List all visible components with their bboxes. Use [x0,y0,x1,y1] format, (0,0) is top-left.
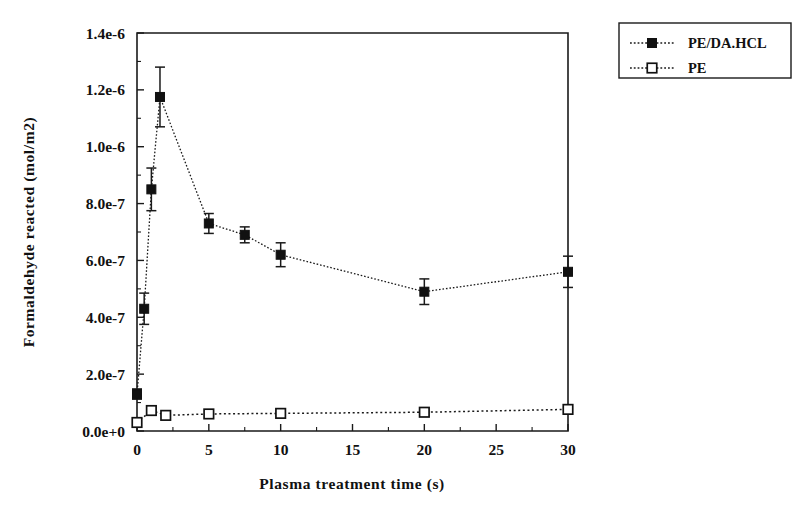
x-tick-label: 25 [488,441,504,458]
x-axis-title: Plasma treatment time (s) [259,475,445,493]
y-axis-tick-labels: 0.0e+02.0e-74.0e-76.0e-78.0e-71.0e-61.2e… [82,25,125,440]
y-tick-label: 1.0e-6 [86,138,125,155]
data-point-filled-square [276,250,285,259]
data-point-filled-square [133,390,142,399]
series-error-bars [132,67,573,399]
y-axis-title: Formaldehyde reacted (mol/m2) [20,117,38,348]
legend-marker-open-square [647,63,657,73]
x-axis-tick-labels: 051015202530 [133,441,576,458]
x-tick-label: 30 [560,441,576,458]
y-tick-label: 4.0e-7 [86,309,125,326]
plot-frame [137,33,568,431]
x-tick-label: 15 [345,441,361,458]
data-point-open-square [420,407,430,417]
data-point-open-square [276,409,286,419]
legend-label: PE/DA.HCL [688,35,767,51]
chart-legend: PE/DA.HCLPE [619,23,791,78]
chart-figure: 051015202530 0.0e+02.0e-74.0e-76.0e-78.0… [0,0,811,517]
data-point-filled-square [240,230,249,239]
legend-marker-filled-square [648,39,657,48]
x-tick-label: 10 [273,441,289,458]
series-lines [137,97,568,423]
data-point-filled-square [140,304,149,313]
y-tick-label: 2.0e-7 [86,366,125,383]
x-tick-label: 0 [133,441,141,458]
data-point-filled-square [420,287,429,296]
x-axis-ticks [137,424,568,431]
series-line-2 [137,409,568,422]
data-point-open-square [204,409,214,419]
data-point-filled-square [204,219,213,228]
series-markers [132,92,573,427]
x-tick-label: 5 [205,441,213,458]
y-tick-label: 8.0e-7 [86,195,125,212]
data-point-filled-square [564,267,573,276]
formaldehyde-vs-plasma-time-chart: 051015202530 0.0e+02.0e-74.0e-76.0e-78.0… [0,0,811,517]
y-tick-label: 6.0e-7 [86,252,125,269]
data-point-open-square [132,418,142,428]
y-tick-label: 0.0e+0 [82,423,125,440]
y-tick-label: 1.4e-6 [86,25,125,42]
data-point-open-square [161,411,171,421]
x-tick-label: 20 [417,441,433,458]
data-point-filled-square [147,185,156,194]
legend-label: PE [688,60,707,76]
data-point-filled-square [155,92,164,101]
data-point-open-square [563,405,573,415]
data-point-open-square [147,406,157,416]
y-axis-ticks [137,33,144,431]
y-tick-label: 1.2e-6 [86,81,125,98]
series-line-1 [137,97,568,394]
